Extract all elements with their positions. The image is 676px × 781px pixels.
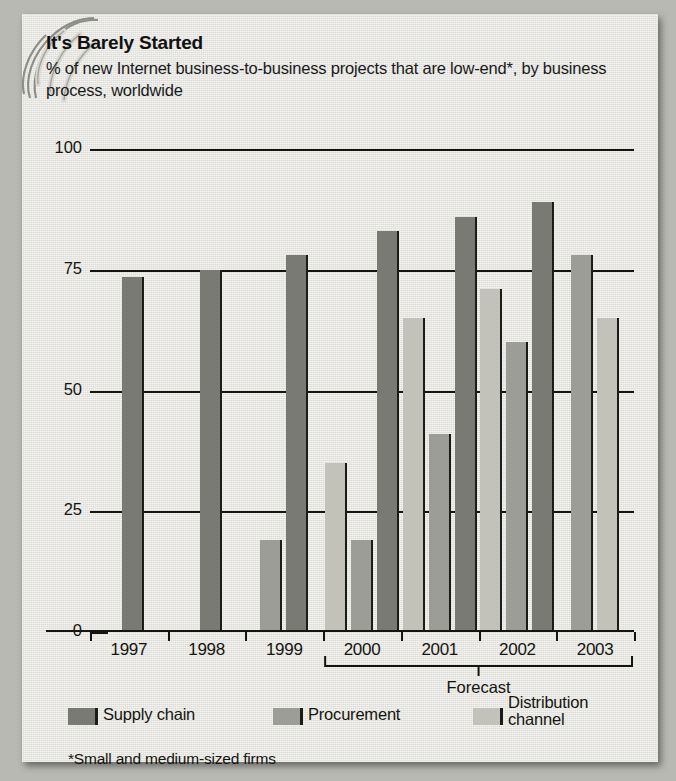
ytick-label-75: 75 <box>42 259 82 278</box>
bar-1999-supply-chain <box>286 255 308 632</box>
chart-footnote: *Small and medium-sized firms <box>68 750 276 768</box>
bar-2000-supply-chain <box>377 231 399 632</box>
bar-2001-supply-chain <box>455 217 477 632</box>
bar-1998-supply-chain <box>200 270 222 632</box>
legend-item-procurement[interactable]: Procurement <box>273 706 473 725</box>
legend-swatch-icon <box>68 708 98 725</box>
ytick-label-25: 25 <box>42 500 82 519</box>
legend-item-distribution-channel[interactable]: Distributionchannel <box>473 694 673 729</box>
ytick-label-100: 100 <box>42 138 82 157</box>
legend-swatch-icon <box>273 708 303 725</box>
legend-item-supply-chain[interactable]: Supply chain <box>68 706 268 725</box>
bar-2000-distribution-channel <box>325 463 347 632</box>
gridline-100 <box>90 149 634 151</box>
page-title: It's Barely Started <box>46 32 203 54</box>
legend-label: Procurement <box>308 706 400 723</box>
ytick-dash-0 <box>90 632 108 634</box>
ytick-label-50: 50 <box>42 380 82 399</box>
legend-label: Distributionchannel <box>508 694 588 729</box>
xtick-2003 <box>634 632 636 641</box>
chart-subtitle: % of new Internet business-to-business p… <box>46 58 626 102</box>
bar-2001-procurement <box>429 434 451 632</box>
x-axis-line <box>46 630 634 632</box>
bar-2001-distribution-channel <box>403 318 425 632</box>
chart-legend: Supply chainProcurementDistributionchann… <box>68 706 638 746</box>
bar-1997-supply-chain <box>122 277 144 632</box>
bar-2002-supply-chain <box>532 202 554 632</box>
bar-2002-procurement <box>506 342 528 632</box>
bar-2002-distribution-channel <box>480 289 502 632</box>
bar-chart-plot: 0255075100 1997199819992000200120022003 <box>46 122 634 632</box>
bar-2003-distribution-channel <box>597 318 619 632</box>
bar-2003-procurement <box>571 255 593 632</box>
chart-card: It's Barely Started % of new Internet bu… <box>22 14 658 762</box>
bar-1999-procurement <box>260 540 282 632</box>
bar-2000-procurement <box>351 540 373 632</box>
legend-swatch-icon <box>473 708 503 725</box>
forecast-bracket-icon <box>46 654 634 678</box>
legend-label: Supply chain <box>103 706 195 723</box>
